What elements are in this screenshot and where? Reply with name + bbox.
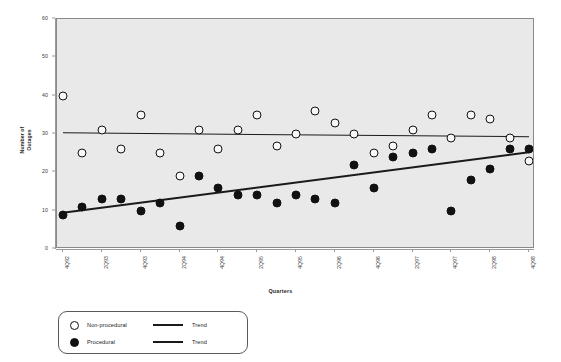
- y-axis-tick-mark: [52, 133, 55, 134]
- data-point-nonprocedural: [214, 145, 223, 154]
- data-point-procedural: [369, 183, 378, 192]
- x-axis-tick-label: 2Q93: [103, 256, 109, 269]
- data-point-procedural: [78, 202, 87, 211]
- data-point-procedural: [233, 191, 242, 200]
- x-axis-tick-label: 4Q96: [375, 256, 381, 269]
- x-axis-tick-mark: [62, 249, 63, 252]
- data-point-nonprocedural: [272, 141, 281, 150]
- x-axis-tick-mark: [295, 249, 296, 252]
- data-point-procedural: [427, 145, 436, 154]
- data-point-nonprocedural: [466, 110, 475, 119]
- x-axis-tick-label: 4Q97: [452, 256, 458, 269]
- data-point-procedural: [97, 195, 106, 204]
- data-point-nonprocedural: [117, 145, 126, 154]
- data-point-procedural: [194, 172, 203, 181]
- data-point-nonprocedural: [350, 130, 359, 139]
- trend-line-procedural: [63, 151, 529, 214]
- data-point-procedural: [330, 199, 339, 208]
- y-axis-tick-mark: [52, 94, 55, 95]
- data-point-nonprocedural: [78, 149, 87, 158]
- data-point-nonprocedural: [156, 149, 165, 158]
- y-axis-tick-label: 60: [22, 15, 48, 21]
- data-point-procedural: [408, 149, 417, 158]
- data-point-procedural: [447, 206, 456, 215]
- y-axis-tick-mark: [52, 18, 55, 19]
- y-axis-line: [55, 18, 56, 249]
- data-point-nonprocedural: [408, 126, 417, 135]
- x-axis-tick-label: 2Q94: [181, 256, 187, 269]
- x-axis-tick-label: 4Q95: [297, 256, 303, 269]
- plot-area: [56, 18, 534, 248]
- data-point-procedural: [253, 191, 262, 200]
- x-axis-tick-label: 4Q98: [530, 256, 536, 269]
- data-point-nonprocedural: [486, 114, 495, 123]
- x-axis-tick-mark: [412, 249, 413, 252]
- x-axis-tick-label: 2Q95: [258, 256, 264, 269]
- y-axis-tick-label: 20: [22, 168, 48, 174]
- y-axis-tick-label: 40: [22, 92, 48, 98]
- data-point-procedural: [292, 191, 301, 200]
- chart-legend: Non-procedural Trend Procedural Trend: [58, 311, 248, 354]
- y-axis-tick-mark: [52, 248, 55, 249]
- trend-line-swatch: [153, 324, 183, 325]
- data-point-nonprocedural: [292, 130, 301, 139]
- data-point-nonprocedural: [427, 110, 436, 119]
- data-point-procedural: [156, 199, 165, 208]
- data-point-procedural: [214, 183, 223, 192]
- data-point-nonprocedural: [175, 172, 184, 181]
- x-axis-tick-mark: [450, 249, 451, 252]
- data-point-nonprocedural: [505, 133, 514, 142]
- y-axis-tick-mark: [52, 171, 55, 172]
- filled-circle-icon: [70, 338, 79, 347]
- x-axis-tick-mark: [256, 249, 257, 252]
- data-point-nonprocedural: [194, 126, 203, 135]
- data-point-procedural: [311, 195, 320, 204]
- legend-trend-label: Trend: [192, 339, 207, 345]
- x-axis-tick-mark: [101, 249, 102, 252]
- data-point-procedural: [117, 195, 126, 204]
- data-point-procedural: [136, 206, 145, 215]
- x-axis-tick-mark: [373, 249, 374, 252]
- legend-row: Non-procedural Trend: [59, 317, 249, 333]
- data-point-nonprocedural: [97, 126, 106, 135]
- x-axis-tick-label: 4Q94: [219, 256, 225, 269]
- y-axis-title-line: Number of: [19, 110, 26, 170]
- y-axis-tick-mark: [52, 56, 55, 57]
- data-point-nonprocedural: [233, 126, 242, 135]
- x-axis-tick-label: 4Q92: [64, 256, 70, 269]
- data-point-procedural: [59, 210, 68, 219]
- x-axis-tick-mark: [217, 249, 218, 252]
- data-point-procedural: [525, 145, 534, 154]
- data-point-nonprocedural: [59, 91, 68, 100]
- x-axis-tick-mark: [528, 249, 529, 252]
- y-axis-tick-mark: [52, 209, 55, 210]
- data-point-nonprocedural: [311, 107, 320, 116]
- legend-series-label: Procedural: [87, 339, 153, 345]
- y-axis-tick-label: 50: [22, 53, 48, 59]
- y-axis-title: Number ofOutages: [19, 110, 33, 170]
- data-point-nonprocedural: [253, 110, 262, 119]
- x-axis-tick-mark: [179, 249, 180, 252]
- open-circle-icon: [70, 321, 79, 330]
- y-axis-tick-label: 30: [22, 130, 48, 136]
- data-point-procedural: [350, 160, 359, 169]
- data-point-nonprocedural: [525, 156, 534, 165]
- x-axis-tick-label: 2Q96: [336, 256, 342, 269]
- trend-line-swatch: [153, 341, 183, 344]
- data-point-nonprocedural: [136, 110, 145, 119]
- plot-inner: [57, 19, 533, 247]
- x-axis-tick-mark: [489, 249, 490, 252]
- data-point-nonprocedural: [330, 118, 339, 127]
- data-point-procedural: [389, 153, 398, 162]
- x-axis-tick-mark: [334, 249, 335, 252]
- data-point-procedural: [466, 176, 475, 185]
- x-axis-tick-label: 4Q93: [142, 256, 148, 269]
- chart-figure: Number ofOutages Quarters Non-procedural…: [0, 0, 561, 362]
- data-point-nonprocedural: [369, 149, 378, 158]
- x-axis-tick-label: 2Q97: [414, 256, 420, 269]
- legend-series-label: Non-procedural: [87, 322, 153, 328]
- y-axis-tick-label: 0: [22, 245, 48, 251]
- data-point-nonprocedural: [447, 133, 456, 142]
- x-axis-tick-label: 2Q98: [491, 256, 497, 269]
- x-axis-title: Quarters: [0, 288, 561, 294]
